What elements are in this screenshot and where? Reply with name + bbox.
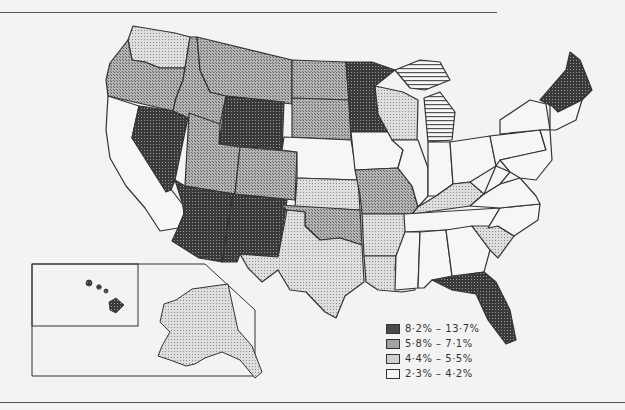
- legend: 8·2% – 13·7% 5·8% – 7·1% 4·4% – 5·5% 2·3…: [386, 322, 480, 382]
- state-mi-upper: [395, 60, 450, 90]
- state-nm: [222, 194, 287, 262]
- legend-swatch: [386, 369, 400, 379]
- legend-item-white: 2·3% – 4·2%: [386, 367, 480, 380]
- state-ak: [158, 284, 262, 378]
- state-mi-lower: [424, 92, 455, 142]
- state-nd: [292, 60, 349, 100]
- state-oh: [450, 136, 496, 184]
- legend-swatch: [386, 324, 400, 334]
- legend-item-dark: 8·2% – 13·7%: [386, 322, 480, 335]
- legend-label: 4·4% – 5·5%: [405, 353, 473, 364]
- legend-label: 8·2% – 13·7%: [405, 323, 480, 334]
- legend-swatch: [386, 354, 400, 364]
- legend-item-mid: 5·8% – 7·1%: [386, 337, 480, 350]
- state-ne-north: [540, 52, 592, 112]
- legend-label: 5·8% – 7·1%: [405, 338, 473, 349]
- state-wy: [219, 96, 284, 150]
- state-ks: [295, 178, 360, 210]
- state-sd: [292, 98, 351, 140]
- state-ny: [500, 100, 550, 134]
- legend-item-light: 4·4% – 5·5%: [386, 352, 480, 365]
- legend-swatch: [386, 339, 400, 349]
- state-co: [235, 147, 297, 200]
- hawaii: [86, 280, 124, 313]
- legend-label: 2·3% – 4·2%: [405, 368, 473, 379]
- us-choropleth-map: [0, 0, 625, 410]
